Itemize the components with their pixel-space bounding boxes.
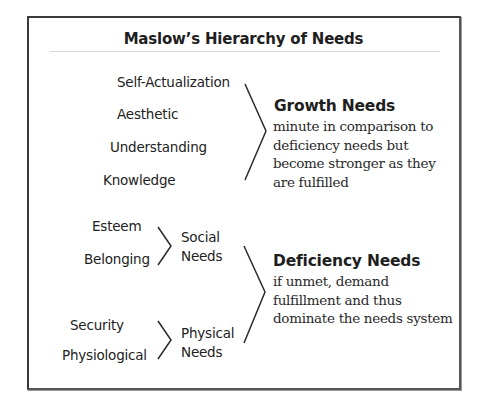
physical-bracket-icon: [158, 321, 171, 359]
bracket-lines: [0, 0, 487, 413]
social-bracket-icon: [158, 227, 171, 265]
deficiency-bracket-icon: [244, 246, 265, 343]
growth-bracket-icon: [245, 84, 266, 180]
